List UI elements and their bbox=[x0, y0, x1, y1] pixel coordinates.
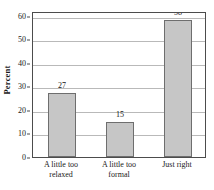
bar-value-label: 58 bbox=[174, 12, 182, 17]
y-axis-tick-mark bbox=[27, 158, 30, 159]
y-axis-tick-mark bbox=[27, 40, 30, 41]
y-axis-title-label: Percent bbox=[2, 65, 12, 94]
bar-value-label: 27 bbox=[58, 82, 66, 90]
bar-value-label: 15 bbox=[116, 111, 124, 119]
x-axis-tick-label-line: A little too bbox=[90, 160, 148, 170]
x-axis-tick-label: A little toorelaxed bbox=[32, 160, 90, 180]
x-axis-tick-label-line: formal bbox=[90, 170, 148, 180]
bar: 27 bbox=[48, 93, 76, 157]
x-axis-tick-label: Just right bbox=[148, 160, 206, 170]
y-axis-tick-label: 60 bbox=[18, 13, 26, 21]
y-axis-tick-label: 30 bbox=[18, 83, 26, 91]
y-axis-tick-mark bbox=[27, 110, 30, 111]
y-axis-tick-mark bbox=[27, 87, 30, 88]
y-axis-tick-labels: 0102030405060 bbox=[12, 12, 30, 158]
x-axis-tick-label-line: A little too bbox=[32, 160, 90, 170]
bar-slot: 27 bbox=[33, 13, 91, 157]
y-axis-tick-mark bbox=[27, 134, 30, 135]
x-axis-tick-labels: A little toorelaxedA little tooformalJus… bbox=[32, 160, 206, 190]
y-axis-tick-label: 50 bbox=[18, 36, 26, 44]
y-axis-tick-label: 20 bbox=[18, 107, 26, 115]
bar: 15 bbox=[106, 122, 134, 157]
x-axis-tick-label-line: relaxed bbox=[32, 170, 90, 180]
y-axis-tick-label: 0 bbox=[22, 154, 26, 162]
bar-slot: 15 bbox=[91, 13, 149, 157]
x-axis-tick-label: A little tooformal bbox=[90, 160, 148, 180]
plot-area: 271558 bbox=[32, 12, 206, 158]
x-axis-tick-label-line: Just right bbox=[148, 160, 206, 170]
bar-chart-figure: Percent 0102030405060 271558 A little to… bbox=[0, 0, 214, 190]
y-axis-tick-label: 10 bbox=[18, 130, 26, 138]
bar: 58 bbox=[164, 20, 192, 157]
y-axis-tick-label: 40 bbox=[18, 60, 26, 68]
bar-slot: 58 bbox=[149, 13, 206, 157]
y-axis-tick-mark bbox=[27, 63, 30, 64]
y-axis-tick-mark bbox=[27, 16, 30, 17]
bars-layer: 271558 bbox=[33, 13, 205, 157]
